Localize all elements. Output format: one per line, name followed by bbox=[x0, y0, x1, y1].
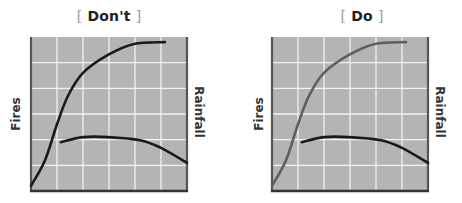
y-axis-label-right: Rainfall bbox=[433, 86, 447, 138]
y-axis-label-left: Fires bbox=[252, 97, 266, 131]
y-axis-label-left: Fires bbox=[9, 97, 23, 131]
dont-chart-panel: [ Don't ] Fires Rainfall bbox=[0, 0, 231, 203]
do-chart-panel: [ Do ] Fires Rainfall bbox=[231, 0, 462, 203]
y-axis-label-right: Rainfall bbox=[192, 86, 206, 138]
